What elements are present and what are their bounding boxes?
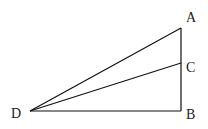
point-label-B: B [186,107,195,122]
geometry-diagram: A C B D [0,0,208,129]
segment-DC [30,63,181,111]
point-label-A: A [186,10,197,25]
diagram-svg: A C B D [0,0,208,129]
segment-DA [30,28,181,111]
point-label-C: C [186,60,195,75]
point-label-D: D [11,106,21,121]
